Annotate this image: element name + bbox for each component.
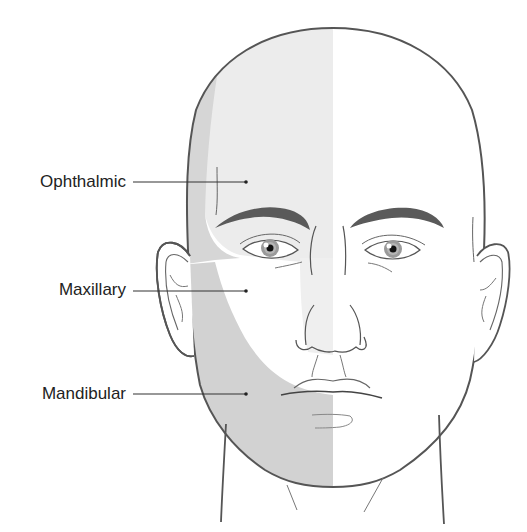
nose-bridge-right — [343, 226, 346, 275]
nose-right-side — [350, 305, 361, 345]
right-eye — [362, 235, 425, 272]
upper-lip — [294, 379, 370, 388]
label-mandibular: Mandibular — [42, 384, 126, 404]
right-ear — [474, 244, 510, 362]
left-ear — [157, 243, 194, 357]
head-illustration — [0, 0, 527, 532]
philtrum — [312, 355, 346, 377]
right-eyebrow — [350, 208, 444, 228]
neck-left — [221, 424, 226, 522]
trigeminal-diagram: Ophthalmic Maxillary Mandibular — [0, 0, 527, 532]
label-maxillary: Maxillary — [59, 280, 126, 300]
neck-tendon-left — [287, 485, 297, 510]
label-ophthalmic: Ophthalmic — [40, 172, 126, 192]
temple-line-right — [473, 217, 474, 262]
